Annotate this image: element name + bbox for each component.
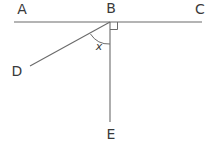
diagram-canvas: A B C D E x: [0, 0, 215, 146]
point-label-C: C: [195, 1, 205, 17]
point-label-D: D: [12, 63, 23, 79]
right-angle-marker-icon: [110, 22, 118, 30]
point-label-E: E: [107, 126, 116, 142]
geometry-diagram: A B C D E x: [0, 0, 215, 146]
point-label-B: B: [106, 0, 116, 16]
point-label-A: A: [17, 1, 27, 17]
angle-label-x: x: [95, 40, 103, 53]
